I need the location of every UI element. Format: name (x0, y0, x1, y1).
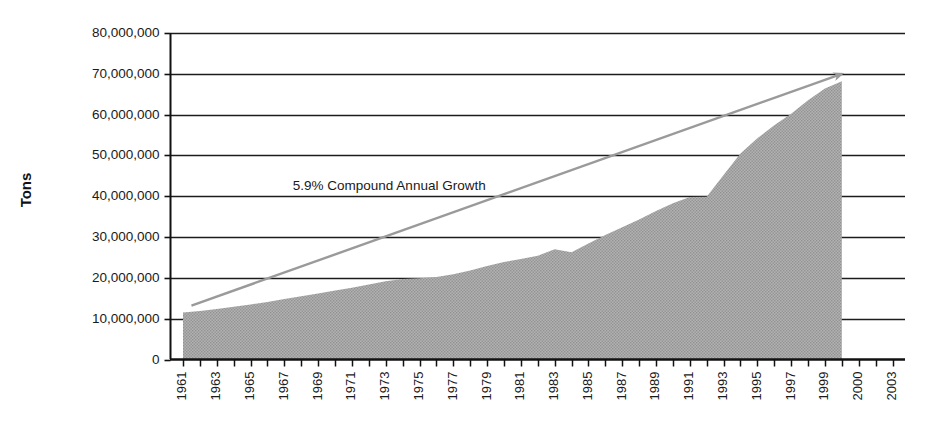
x-axis-label-group: 1961196319651967196919711973197519771979… (174, 371, 899, 400)
x-axis-tick-label: 1983 (546, 372, 561, 401)
chart-container: 5.9% Compound Annual Growth 010,000,0002… (0, 0, 932, 429)
x-axis-tick-label: 1981 (512, 372, 527, 401)
x-axis-tick-label: 2003 (884, 372, 899, 401)
y-axis-tick-label: 30,000,000 (92, 229, 160, 244)
x-axis-tick-label: 1967 (276, 372, 291, 401)
x-axis-tick-label: 1965 (242, 372, 257, 401)
y-axis-tick-label: 10,000,000 (92, 311, 160, 326)
y-axis-tick-label: 50,000,000 (92, 147, 160, 162)
x-axis-tick-label: 1989 (647, 372, 662, 401)
y-axis-tick-label: 80,000,000 (92, 25, 160, 40)
x-axis-tick-label: 2000 (850, 372, 865, 401)
y-axis-tick-label: 40,000,000 (92, 188, 160, 203)
x-axis-tick-label: 1975 (411, 372, 426, 401)
x-axis-tick-label: 1993 (715, 372, 730, 401)
x-axis-tick-label: 1995 (749, 372, 764, 401)
y-axis-tick-label: 0 (152, 352, 160, 367)
x-axis-tick-label: 1991 (681, 372, 696, 401)
x-axis-tick-label: 1985 (580, 372, 595, 401)
growth-annotation-label: 5.9% Compound Annual Growth (293, 178, 486, 193)
y-axis-tick-label: 60,000,000 (92, 107, 160, 122)
y-axis-title: Tons (17, 173, 34, 208)
x-axis-tick-label: 1969 (310, 372, 325, 401)
x-axis-tick-label: 1977 (445, 372, 460, 401)
y-axis-group: 010,000,00020,000,00030,000,00040,000,00… (92, 25, 171, 367)
x-axis-tick-label: 1963 (208, 372, 223, 401)
x-axis-tick-label: 1961 (174, 372, 189, 401)
x-axis-tick-label: 1999 (816, 372, 831, 401)
x-axis-tick-label: 1987 (614, 372, 629, 401)
y-axis-tick-label: 70,000,000 (92, 66, 160, 81)
x-axis-tick-label: 1971 (343, 372, 358, 401)
x-axis-tick-label: 1997 (783, 372, 798, 401)
x-axis-tick-label: 1979 (479, 371, 494, 400)
y-axis-tick-label: 20,000,000 (92, 270, 160, 285)
area-chart: 5.9% Compound Annual Growth 010,000,0002… (0, 0, 932, 429)
x-axis-tick-label: 1973 (377, 372, 392, 401)
